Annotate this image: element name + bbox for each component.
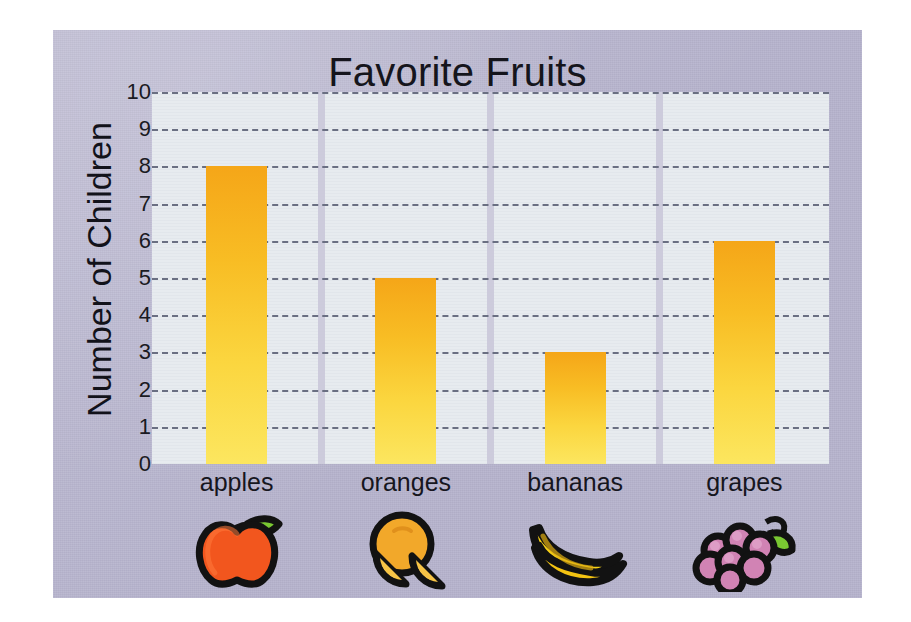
x-label-bananas: bananas [491, 470, 660, 495]
bar-bananas[interactable] [545, 352, 606, 464]
apple-icon-svg [185, 504, 289, 592]
bar-grapes[interactable] [714, 241, 775, 464]
y-axis-tick-labels: 012345678910 [105, 92, 151, 464]
y-tick-label: 10 [105, 81, 151, 103]
y-tick-label: 0 [105, 453, 151, 475]
y-tick-label: 4 [105, 304, 151, 326]
bar-oranges[interactable] [375, 278, 436, 464]
bar-apples[interactable] [206, 166, 267, 464]
y-tick-label: 8 [105, 155, 151, 177]
grapes-icon-svg [688, 504, 800, 592]
y-tick-label: 3 [105, 341, 151, 363]
banana-icon [491, 504, 660, 592]
chart-card: Favorite Fruits Number of Children 01234… [53, 30, 862, 598]
plot-area [152, 92, 829, 464]
x-label-oranges: oranges [321, 470, 490, 495]
y-tick-label: 6 [105, 230, 151, 252]
gridline [152, 129, 829, 131]
y-tick-label: 5 [105, 267, 151, 289]
orange-icon [321, 504, 490, 592]
banana-icon-svg [519, 504, 631, 592]
x-label-apples: apples [152, 470, 321, 495]
y-tick-label: 1 [105, 416, 151, 438]
x-label-grapes: grapes [660, 470, 829, 495]
orange-icon-svg [354, 504, 458, 592]
y-tick-label: 2 [105, 379, 151, 401]
fruit-icon-row [152, 504, 829, 596]
y-tick-label: 9 [105, 118, 151, 140]
apple-icon [152, 504, 321, 592]
grapes-icon [660, 504, 829, 592]
x-axis-category-labels: applesorangesbananasgrapes [152, 470, 829, 504]
y-tick-label: 7 [105, 193, 151, 215]
chart-title: Favorite Fruits [53, 50, 862, 95]
